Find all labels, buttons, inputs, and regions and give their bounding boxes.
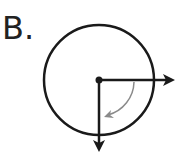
rotation-diagram <box>0 0 185 153</box>
clockwise-rotation-arrow <box>104 82 134 118</box>
vertical-arrow <box>93 80 105 152</box>
horizontal-arrow <box>99 74 175 86</box>
center-point <box>96 77 103 84</box>
